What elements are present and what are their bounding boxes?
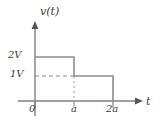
y-tick-label-1v: 1V (10, 69, 24, 79)
x-tick-label-2a: 2a (106, 104, 118, 114)
waveform-trace (35, 57, 113, 101)
x-axis-arrowhead (135, 98, 143, 105)
waveform-figure: v(t) t 2V 1V 0 a 2a (0, 0, 160, 130)
plot-canvas (0, 0, 160, 130)
x-tick-label-zero: 0 (29, 104, 35, 114)
y-axis-arrowhead (32, 21, 39, 29)
x-tick-label-a: a (71, 104, 77, 114)
y-tick-label-2v: 2V (8, 50, 22, 60)
y-axis-label: v(t) (40, 6, 59, 17)
x-axis-label: t (146, 96, 150, 107)
